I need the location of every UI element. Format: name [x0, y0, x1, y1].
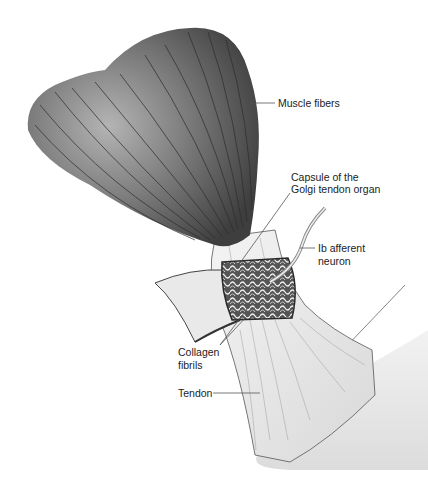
muscle-belly	[28, 28, 259, 246]
golgi-capsule	[222, 258, 295, 320]
golgi-tendon-organ-diagram: Muscle fibers Capsule of the Golgi tendo…	[0, 0, 428, 481]
label-collagen-line1: Collagen	[178, 346, 219, 359]
label-collagen-line2: fibrils	[178, 359, 203, 372]
label-ib-line1: Ib afferent	[318, 242, 365, 255]
illustration	[0, 0, 428, 481]
label-muscle-fibers: Muscle fibers	[278, 97, 340, 110]
label-capsule-line2: Golgi tendon organ	[291, 183, 380, 196]
label-ib-line2: neuron	[318, 255, 351, 268]
label-tendon: Tendon	[178, 387, 212, 400]
